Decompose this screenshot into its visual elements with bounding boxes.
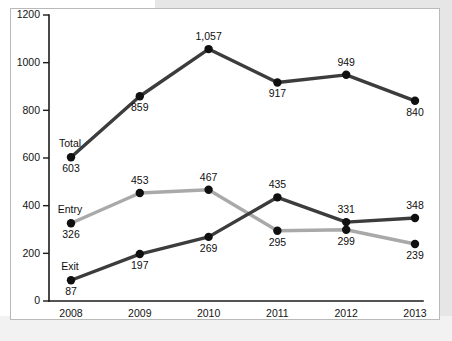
y-tick-label: 800 [22, 104, 40, 116]
y-tick-label: 0 [34, 294, 40, 306]
y-tick-group: 020040060080010001200 [17, 9, 49, 306]
data-point-exit-2010 [204, 233, 212, 241]
x-tick-label: 2011 [266, 307, 289, 319]
series-name-entry: Entry [58, 203, 83, 215]
y-tick-label: 1000 [17, 56, 41, 68]
data-point-entry-2009 [136, 189, 144, 197]
data-label-total-2012: 949 [337, 56, 355, 68]
data-label-exit-2012: 331 [337, 203, 355, 215]
chart-panel: 020040060080010001200 200820092010201120… [10, 8, 440, 320]
data-point-exit-2008 [67, 276, 75, 284]
data-label-exit-2008: 87 [65, 285, 77, 297]
data-label-exit-2011: 435 [269, 178, 287, 190]
data-point-entry-2008 [67, 219, 75, 227]
data-label-total-2009: 859 [131, 101, 149, 113]
data-label-total-2008: 603 [62, 162, 80, 174]
data-point-exit-2012 [342, 218, 350, 226]
data-label-entry-2012: 299 [337, 235, 355, 247]
data-label-entry-2010: 467 [200, 171, 218, 183]
data-point-total-2009 [136, 92, 144, 100]
data-label-exit-2013: 348 [406, 199, 424, 211]
data-label-entry-2009: 453 [131, 174, 149, 186]
series-name-exit: Exit [61, 260, 79, 272]
data-point-total-2013 [411, 97, 419, 105]
data-point-total-2012 [342, 71, 350, 79]
x-tick-label: 2008 [59, 307, 83, 319]
data-point-entry-2011 [273, 226, 281, 234]
data-point-entry-2013 [411, 240, 419, 248]
data-label-entry-2013: 239 [406, 249, 424, 261]
series-name-total: Total [59, 137, 81, 149]
x-tick-label: 2012 [335, 307, 359, 319]
data-label-total-2013: 840 [406, 106, 424, 118]
data-point-exit-2011 [273, 193, 281, 201]
series-line-total [71, 49, 415, 157]
data-point-total-2008 [67, 153, 75, 161]
y-tick-label: 400 [22, 199, 40, 211]
data-point-exit-2009 [136, 250, 144, 258]
line-chart: 020040060080010001200 200820092010201120… [11, 9, 439, 319]
data-point-exit-2013 [411, 214, 419, 222]
data-label-total-2011: 917 [269, 87, 287, 99]
data-label-entry-2008: 326 [62, 228, 80, 240]
data-point-total-2011 [273, 78, 281, 86]
x-tick-label: 2009 [128, 307, 152, 319]
data-label-group: 6038591,05791794984032645346729529923987… [62, 30, 424, 297]
data-label-total-2010: 1,057 [195, 30, 221, 42]
data-label-exit-2010: 269 [200, 242, 218, 254]
series-group [67, 45, 419, 285]
data-label-entry-2011: 295 [269, 236, 287, 248]
x-tick-label: 2013 [403, 307, 427, 319]
y-tick-label: 1200 [17, 9, 41, 20]
x-tick-label: 2010 [197, 307, 221, 319]
data-point-entry-2010 [204, 185, 212, 193]
y-tick-label: 200 [22, 247, 40, 259]
y-tick-label: 600 [22, 151, 40, 163]
x-tick-group: 200820092010201120122013 [59, 307, 427, 319]
data-point-entry-2012 [342, 226, 350, 234]
data-point-total-2010 [204, 45, 212, 53]
data-label-exit-2009: 197 [131, 259, 149, 271]
